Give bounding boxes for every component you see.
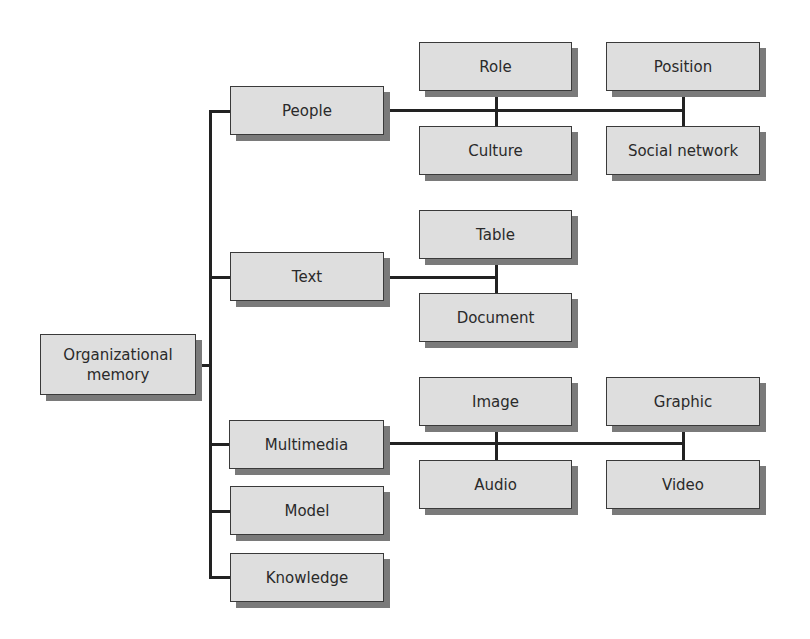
node-people: People bbox=[230, 86, 384, 135]
node-label: Organizational memory bbox=[63, 345, 172, 385]
node-label: Social network bbox=[628, 141, 738, 161]
node-organizational-memory: Organizational memory bbox=[40, 334, 196, 395]
people-branch-connector bbox=[209, 110, 231, 113]
node-social-network: Social network bbox=[606, 126, 760, 175]
role-culture-vertical-line bbox=[495, 91, 498, 127]
node-multimedia: Multimedia bbox=[229, 420, 384, 469]
node-label: Knowledge bbox=[266, 568, 348, 588]
node-label: Table bbox=[476, 225, 515, 245]
node-table: Table bbox=[419, 210, 572, 259]
node-label: Culture bbox=[468, 141, 523, 161]
knowledge-branch-connector bbox=[209, 576, 231, 579]
node-video: Video bbox=[606, 460, 760, 509]
node-label: Image bbox=[472, 392, 519, 412]
node-label: People bbox=[282, 101, 332, 121]
node-audio: Audio bbox=[419, 460, 572, 509]
image-audio-vertical-line bbox=[495, 426, 498, 461]
node-graphic: Graphic bbox=[606, 377, 760, 426]
node-knowledge: Knowledge bbox=[230, 553, 384, 602]
node-label: Video bbox=[662, 475, 704, 495]
node-text: Text bbox=[230, 252, 384, 301]
people-horizontal-line bbox=[384, 109, 684, 112]
text-branch-connector bbox=[209, 276, 231, 279]
node-document: Document bbox=[419, 293, 572, 342]
multimedia-branch-connector bbox=[209, 443, 231, 446]
trunk-line bbox=[209, 110, 212, 578]
node-label: Role bbox=[479, 57, 511, 77]
node-label: Text bbox=[292, 267, 322, 287]
table-document-vertical-line bbox=[495, 259, 498, 294]
node-label: Graphic bbox=[654, 392, 712, 412]
position-socialnetwork-vertical-line bbox=[682, 91, 685, 127]
node-label: Multimedia bbox=[265, 435, 348, 455]
text-horizontal-line bbox=[384, 276, 498, 279]
node-image: Image bbox=[419, 377, 572, 426]
node-position: Position bbox=[606, 42, 760, 91]
multimedia-horizontal-line bbox=[384, 442, 684, 445]
graphic-video-vertical-line bbox=[682, 426, 685, 461]
model-branch-connector bbox=[209, 510, 231, 513]
node-label: Document bbox=[457, 308, 535, 328]
node-model: Model bbox=[230, 486, 384, 535]
node-label: Model bbox=[284, 501, 329, 521]
node-label: Audio bbox=[474, 475, 517, 495]
node-culture: Culture bbox=[419, 126, 572, 175]
root-connector bbox=[196, 364, 211, 367]
node-label: Position bbox=[654, 57, 712, 77]
node-role: Role bbox=[419, 42, 572, 91]
